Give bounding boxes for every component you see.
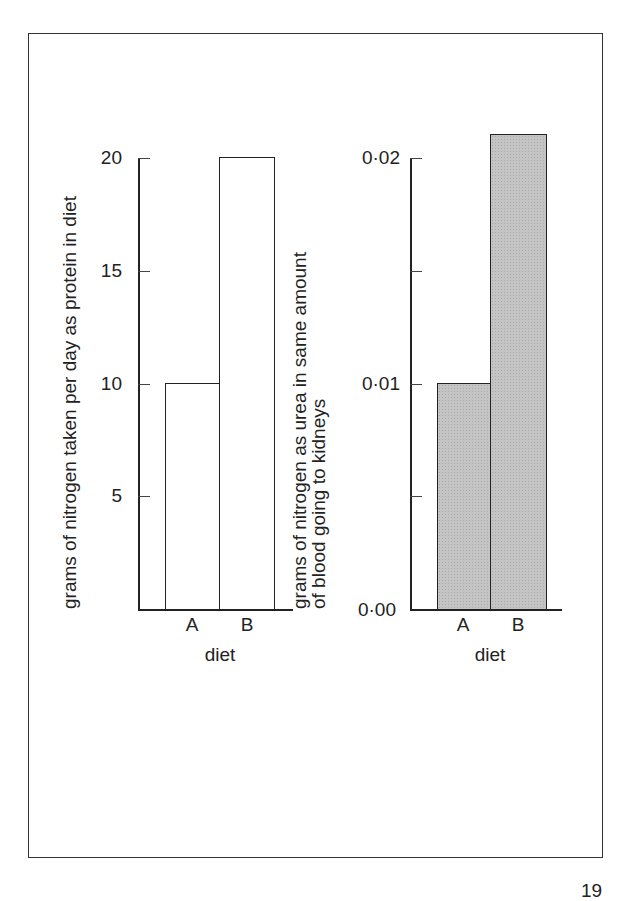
right-bar-b bbox=[490, 134, 547, 610]
left-tick-label-10: 10 bbox=[52, 374, 122, 394]
right-category-a: A bbox=[443, 614, 483, 636]
left-tick-label-5: 5 bbox=[52, 486, 122, 506]
right-tick-0-005 bbox=[410, 496, 422, 497]
right-category-b: B bbox=[498, 614, 538, 636]
right-tick-label-0-02: 0·02 bbox=[330, 148, 400, 168]
left-bar-b bbox=[219, 157, 275, 610]
right-tick-label-0-00: 0·00 bbox=[326, 600, 396, 620]
left-tick-label-15: 15 bbox=[52, 261, 122, 281]
left-category-b: B bbox=[227, 614, 267, 636]
left-tick-label-20: 20 bbox=[52, 148, 122, 168]
right-tick-label-0-01: 0·01 bbox=[330, 374, 400, 394]
left-tick-20 bbox=[138, 158, 150, 159]
left-tick-5 bbox=[138, 496, 150, 497]
page-number: 19 bbox=[581, 880, 602, 901]
left-bar-a bbox=[165, 383, 221, 610]
right-tick-0-01 bbox=[410, 384, 422, 385]
left-tick-15 bbox=[138, 271, 150, 272]
right-y-axis-label-line1: grams of nitrogen as urea in same amount bbox=[289, 252, 310, 609]
right-y-axis-label-line2: of blood going to kidneys bbox=[308, 399, 329, 609]
left-tick-10 bbox=[138, 384, 150, 385]
right-x-axis-label: diet bbox=[450, 644, 530, 666]
left-y-axis-label: grams of nitrogen taken per day as prote… bbox=[59, 196, 80, 609]
right-tick-0-02 bbox=[410, 158, 422, 159]
left-x-axis-label: diet bbox=[180, 644, 260, 666]
left-category-a: A bbox=[172, 614, 212, 636]
right-tick-0-015 bbox=[410, 271, 422, 272]
right-bar-a bbox=[437, 383, 492, 610]
